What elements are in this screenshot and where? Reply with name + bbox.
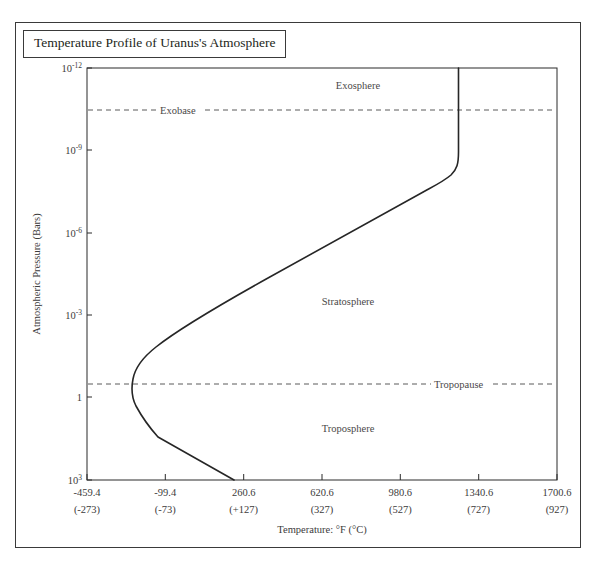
y-tick-base-5: 10 [68, 475, 79, 486]
y-axis-ticks [87, 68, 92, 480]
plot-frame [87, 68, 557, 480]
y-tick-exp-2: -6 [76, 226, 82, 235]
tropopause-boundary: Tropopause [88, 379, 556, 390]
y-tick-exp-1: -9 [76, 143, 82, 152]
y-tick-exp-0: -12 [72, 61, 82, 70]
x-tick-f-5: 1340.6 [464, 487, 493, 498]
y-axis-tick-labels: 10-12 10-9 10-6 10-3 1 103 [62, 61, 83, 486]
x-tick-c-4: (527) [389, 504, 412, 516]
y-tick-base-1: 10 [65, 145, 76, 156]
temperature-profile-line [132, 68, 459, 480]
x-axis-tick-labels-fahrenheit: -459.4 -99.4 260.6 620.6 980.6 1340.6 17… [73, 487, 571, 498]
y-tick-exp-5: 3 [78, 473, 82, 482]
x-tick-f-1: -99.4 [154, 487, 177, 498]
region-label-exosphere: Exosphere [336, 80, 381, 91]
x-tick-f-3: 620.6 [310, 487, 334, 498]
region-label-stratosphere: Stratosphere [322, 296, 375, 307]
temperature-profile-chart: 10-12 10-9 10-6 10-3 1 103 Atmospheric P… [16, 23, 582, 549]
x-tick-f-4: 980.6 [388, 487, 412, 498]
svg-text:10-3: 10-3 [65, 308, 82, 321]
x-axis-ticks [87, 474, 557, 480]
x-tick-c-2: (+127) [229, 504, 258, 516]
x-tick-f-6: 1700.6 [543, 487, 572, 498]
x-axis-tick-labels-celsius: (-273) (-73) (+127) (327) (527) (727) (9… [74, 504, 569, 516]
svg-text:1: 1 [77, 392, 82, 403]
y-tick-base-2: 10 [65, 228, 76, 239]
x-tick-c-3: (327) [311, 504, 334, 516]
x-tick-c-5: (727) [467, 504, 490, 516]
svg-text:103: 103 [68, 473, 83, 486]
figure-panel: Temperature Profile of Uranus's Atmosphe… [15, 22, 581, 548]
exobase-label: Exobase [160, 105, 196, 116]
y-tick-base-4: 1 [77, 392, 82, 403]
x-tick-c-1: (-73) [155, 504, 176, 516]
tropopause-label: Tropopause [434, 379, 484, 390]
y-tick-base-3: 10 [65, 310, 76, 321]
svg-text:10-12: 10-12 [62, 61, 83, 74]
x-tick-c-6: (927) [546, 504, 569, 516]
x-tick-f-2: 260.6 [232, 487, 256, 498]
x-tick-c-0: (-273) [74, 504, 101, 516]
svg-text:10-6: 10-6 [65, 226, 82, 239]
y-axis-title: Atmospheric Pressure (Bars) [31, 213, 43, 335]
svg-text:10-9: 10-9 [65, 143, 82, 156]
y-tick-exp-3: -3 [76, 308, 82, 317]
exobase-boundary: Exobase [88, 105, 556, 116]
y-tick-base-0: 10 [62, 63, 73, 74]
x-tick-f-0: -459.4 [73, 487, 101, 498]
x-axis-title: Temperature: °F (°C) [277, 524, 367, 536]
region-label-troposphere: Troposphere [322, 423, 375, 434]
